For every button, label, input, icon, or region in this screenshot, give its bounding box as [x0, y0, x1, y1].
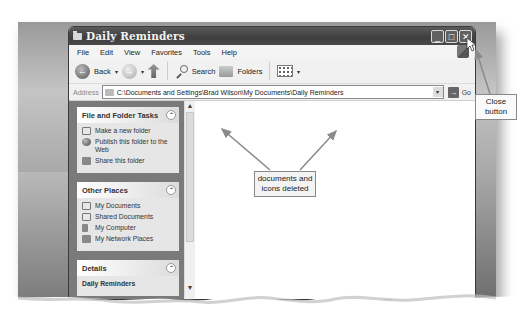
- place-label: My Documents: [95, 202, 140, 210]
- address-dropdown-icon[interactable]: ▾: [433, 87, 443, 97]
- details-label: Daily Reminders: [82, 280, 135, 288]
- minimize-button[interactable]: _: [431, 30, 444, 43]
- globe-icon: [82, 138, 91, 146]
- menu-tools[interactable]: Tools: [193, 48, 211, 57]
- panel-details: Details ⌃ Daily Reminders: [77, 260, 179, 296]
- toolbar: ← Back ▾ → ▾ Search Folders ▾: [69, 59, 475, 84]
- taskpane-scrollbar[interactable]: ▲ ▼: [184, 101, 195, 299]
- place-label: Shared Documents: [95, 213, 153, 221]
- panel-header[interactable]: Details ⌃: [77, 260, 179, 276]
- task-label: Publish this folder to the Web: [95, 138, 175, 154]
- menu-file[interactable]: File: [77, 48, 89, 57]
- back-dropdown-icon[interactable]: ▾: [115, 68, 118, 75]
- panel-other-places: Other Places ⌃ My Documents Shared Docum…: [77, 182, 179, 251]
- place-label: My Network Places: [95, 235, 153, 243]
- documents-icon: [82, 202, 91, 210]
- folder-icon: [73, 33, 82, 40]
- scroll-thumb[interactable]: [186, 112, 194, 242]
- explorer-window: Daily Reminders _ □ ✕ File Edit View Fav…: [68, 26, 476, 300]
- address-bar: Address C:\Documents and Settings\Brad W…: [69, 84, 475, 101]
- panel-file-folder-tasks: File and Folder Tasks ⌃ Make a new folde…: [77, 107, 179, 173]
- panel-title: Details: [82, 264, 107, 273]
- back-button[interactable]: Back: [94, 67, 111, 76]
- window-title: Daily Reminders: [86, 30, 185, 42]
- search-button[interactable]: Search: [192, 67, 216, 76]
- file-list-area[interactable]: [195, 101, 475, 299]
- details-name: Daily Reminders: [82, 280, 175, 288]
- folder-icon: [105, 89, 114, 96]
- address-value: C:\Documents and Settings\Brad Wilson\My…: [117, 89, 344, 96]
- scroll-up-icon[interactable]: ▲: [185, 101, 195, 111]
- go-label: Go: [462, 89, 471, 96]
- views-icon[interactable]: [277, 65, 293, 77]
- go-arrow-icon: →: [448, 87, 459, 98]
- task-pane: File and Folder Tasks ⌃ Make a new folde…: [69, 101, 184, 299]
- content-area: File and Folder Tasks ⌃ Make a new folde…: [69, 101, 475, 299]
- folders-button[interactable]: Folders: [237, 67, 262, 76]
- menu-help[interactable]: Help: [222, 48, 237, 57]
- search-icon[interactable]: [175, 65, 188, 78]
- address-label: Address: [73, 89, 99, 96]
- maximize-button[interactable]: □: [445, 30, 458, 43]
- new-folder-icon: [82, 127, 91, 135]
- task-label: Share this folder: [95, 157, 145, 165]
- place-my-computer[interactable]: My Computer: [82, 224, 175, 232]
- panel-title: File and Folder Tasks: [82, 111, 158, 120]
- panel-header[interactable]: Other Places ⌃: [77, 182, 179, 198]
- callout-close-button: Close button: [475, 94, 517, 120]
- collapse-icon[interactable]: ⌃: [166, 263, 176, 273]
- address-input[interactable]: C:\Documents and Settings\Brad Wilson\My…: [102, 85, 444, 99]
- task-share-folder[interactable]: Share this folder: [82, 157, 175, 165]
- place-label: My Computer: [95, 224, 136, 232]
- menu-edit[interactable]: Edit: [100, 48, 113, 57]
- menu-view[interactable]: View: [124, 48, 140, 57]
- collapse-icon[interactable]: ⌃: [166, 110, 176, 120]
- title-bar[interactable]: Daily Reminders _ □ ✕: [69, 27, 475, 45]
- shared-folder-icon: [82, 213, 91, 221]
- callout-documents-deleted: documents and icons deleted: [254, 171, 316, 197]
- collapse-icon[interactable]: ⌃: [166, 185, 176, 195]
- menu-bar: File Edit View Favorites Tools Help: [69, 45, 475, 59]
- task-make-new-folder[interactable]: Make a new folder: [82, 127, 175, 135]
- windows-logo-icon: [457, 45, 469, 58]
- place-my-network-places[interactable]: My Network Places: [82, 235, 175, 243]
- network-icon: [82, 235, 91, 243]
- folders-icon[interactable]: [219, 66, 233, 77]
- panel-title: Other Places: [82, 186, 128, 195]
- window-controls: _ □ ✕: [431, 30, 475, 43]
- task-label: Make a new folder: [95, 127, 151, 135]
- share-folder-icon: [82, 157, 91, 165]
- place-shared-documents[interactable]: Shared Documents: [82, 213, 175, 221]
- go-button[interactable]: → Go: [448, 87, 471, 98]
- back-arrow-icon[interactable]: ←: [75, 64, 90, 79]
- forward-button[interactable]: →: [122, 64, 137, 79]
- toolbar-separator: [167, 62, 168, 80]
- views-dropdown-icon[interactable]: ▾: [297, 68, 300, 75]
- task-publish-folder[interactable]: Publish this folder to the Web: [82, 138, 175, 154]
- computer-icon: [82, 224, 88, 232]
- scroll-down-icon[interactable]: ▼: [185, 283, 195, 293]
- place-my-documents[interactable]: My Documents: [82, 202, 175, 210]
- up-folder-icon[interactable]: [148, 64, 160, 78]
- menu-favorites[interactable]: Favorites: [151, 48, 182, 57]
- close-button[interactable]: ✕: [459, 30, 472, 43]
- toolbar-separator: [269, 62, 270, 80]
- panel-header[interactable]: File and Folder Tasks ⌃: [77, 107, 179, 123]
- forward-dropdown-icon[interactable]: ▾: [141, 68, 144, 75]
